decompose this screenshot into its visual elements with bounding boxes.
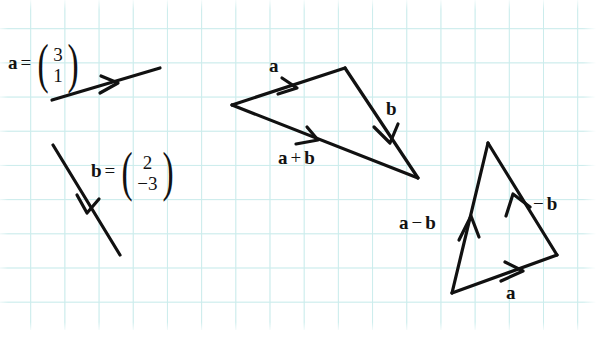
addition-sum-a: a: [278, 147, 288, 168]
vector-a-y: 1: [53, 65, 63, 86]
vector-a-letter: a: [8, 52, 18, 73]
vector-a-column: (31): [34, 44, 81, 87]
subtraction-diff-operator: −: [409, 212, 426, 233]
subtraction-edge-negb-arrowhead: [506, 194, 530, 216]
addition-edge-b: [345, 68, 418, 178]
addition-edge-a: [232, 68, 345, 105]
addition-label-a: a: [269, 56, 279, 75]
right-paren-a: ): [67, 45, 78, 85]
addition-sum-b: b: [304, 147, 315, 168]
subtraction-diff-a: a: [399, 212, 409, 233]
vector-b-column: (2−3): [118, 152, 176, 195]
subtraction-label-a: a: [506, 283, 516, 302]
vector-b-components: 2−3: [136, 152, 158, 195]
vector-b-letter: b: [91, 160, 102, 181]
vector-b-equals: =: [102, 160, 119, 181]
subtraction-negb-operator: −: [530, 193, 547, 214]
vector-b-definition: b=(2−3): [91, 152, 176, 195]
addition-label-sum: a+b: [278, 148, 315, 167]
addition-triangle: [232, 68, 418, 178]
subtraction-label-negb: −b: [530, 194, 557, 213]
vector-a-components: 31: [52, 44, 64, 87]
addition-sum-operator: +: [288, 147, 305, 168]
right-paren-b: ): [162, 153, 173, 193]
left-paren-a: (: [38, 45, 49, 85]
vector-a-x: 3: [53, 44, 63, 65]
subtraction-negb-b: b: [547, 193, 558, 214]
figure-canvas: a=(31) b=(2−3) a b a+b a−b −b a: [0, 0, 613, 346]
left-paren-b: (: [122, 153, 133, 193]
vector-b-x: 2: [143, 152, 153, 173]
subtraction-diff-b: b: [425, 212, 436, 233]
vector-b-y: −3: [137, 173, 157, 194]
subtraction-triangle: [452, 143, 557, 293]
subtraction-label-diff: a−b: [399, 213, 436, 232]
vector-a-definition: a=(31): [8, 44, 82, 87]
addition-label-b: b: [386, 99, 397, 118]
vector-a-equals: =: [18, 52, 35, 73]
